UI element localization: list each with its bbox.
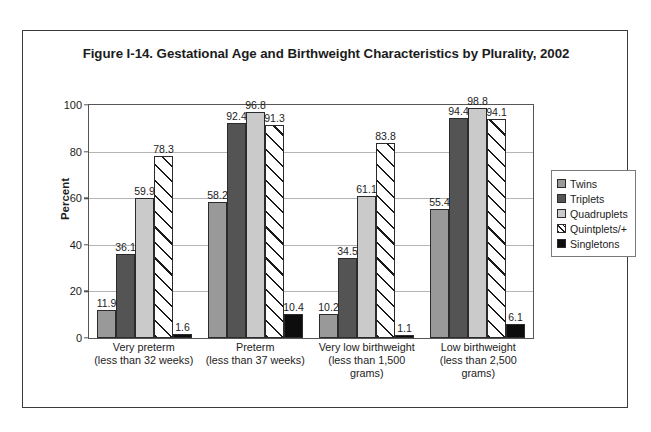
bar[interactable]: 10.2 <box>319 314 338 338</box>
bar[interactable]: 83.8 <box>376 143 395 338</box>
legend-label: Twins <box>570 178 597 190</box>
legend-swatch-icon <box>557 179 566 188</box>
bar-group: 11.936.159.978.31.6 <box>89 105 200 338</box>
bar[interactable]: 96.8 <box>246 112 265 338</box>
legend-item[interactable]: Singletons <box>557 236 628 251</box>
legend-swatch-icon <box>557 239 566 248</box>
bar-value-label: 1.1 <box>397 322 412 334</box>
bar-groups: 11.936.159.978.31.658.292.496.891.310.41… <box>89 105 533 338</box>
bars: 10.234.561.183.81.1 <box>311 105 422 338</box>
bar-slot: 55.4 <box>430 105 449 338</box>
bar-value-label: 94.1 <box>486 106 506 118</box>
legend-item[interactable]: Twins <box>557 176 628 191</box>
legend-label: Triplets <box>570 193 604 205</box>
bars: 58.292.496.891.310.4 <box>200 105 311 338</box>
bar-group: 10.234.561.183.81.1 <box>311 105 422 338</box>
bar-value-label: 10.2 <box>318 301 338 313</box>
bar[interactable]: 94.1 <box>487 119 506 338</box>
bar[interactable]: 6.1 <box>506 324 525 338</box>
bar-value-label: 91.3 <box>264 112 284 124</box>
bar[interactable]: 10.4 <box>284 314 303 338</box>
bar[interactable]: 36.1 <box>116 254 135 338</box>
bar-value-label: 55.4 <box>429 196 449 208</box>
bar-slot: 94.4 <box>449 105 468 338</box>
bar[interactable]: 94.4 <box>449 118 468 338</box>
y-tick-label: 100 <box>64 99 82 111</box>
y-tick-label: 60 <box>70 192 82 204</box>
figure-frame: Figure I-14. Gestational Age and Birthwe… <box>22 30 628 408</box>
bar-slot: 34.5 <box>338 105 357 338</box>
x-axis-category-label: Preterm(less than 37 weeks) <box>200 341 312 381</box>
bar[interactable]: 91.3 <box>265 125 284 338</box>
legend-item[interactable]: Quadruplets <box>557 206 628 221</box>
bar[interactable]: 92.4 <box>227 123 246 338</box>
bar-slot: 78.3 <box>154 105 173 338</box>
bar-slot: 92.4 <box>227 105 246 338</box>
chart-legend: TwinsTripletsQuadrupletsQuintplets/+Sing… <box>551 170 636 257</box>
bar[interactable]: 1.6 <box>173 334 192 338</box>
bar-value-label: 11.9 <box>97 297 117 309</box>
bar-value-label: 96.8 <box>245 99 265 111</box>
y-tick-label: 40 <box>70 239 82 251</box>
bar[interactable]: 34.5 <box>338 258 357 338</box>
bars: 55.494.498.894.16.1 <box>422 105 533 338</box>
bar-slot: 94.1 <box>487 105 506 338</box>
chart-title: Figure I-14. Gestational Age and Birthwe… <box>23 46 629 61</box>
bar[interactable]: 58.2 <box>208 202 227 338</box>
legend-swatch-icon <box>557 194 566 203</box>
bar-value-label: 78.3 <box>153 143 173 155</box>
bar[interactable]: 1.1 <box>395 335 414 338</box>
bar-slot: 58.2 <box>208 105 227 338</box>
legend-item[interactable]: Triplets <box>557 191 628 206</box>
bar-slot: 10.2 <box>319 105 338 338</box>
bar-slot: 83.8 <box>376 105 395 338</box>
legend-label: Quadruplets <box>570 208 628 220</box>
bar-slot: 6.1 <box>506 105 525 338</box>
bar[interactable]: 55.4 <box>430 209 449 338</box>
bar-value-label: 59.9 <box>134 185 154 197</box>
bar-value-label: 83.8 <box>375 130 395 142</box>
bar-slot: 11.9 <box>97 105 116 338</box>
y-tick-label: 20 <box>70 285 82 297</box>
bar-slot: 1.6 <box>173 105 192 338</box>
legend-item[interactable]: Quintplets/+ <box>557 221 628 236</box>
plot-area: 020406080100 11.936.159.978.31.658.292.4… <box>88 104 534 339</box>
bar-slot: 59.9 <box>135 105 154 338</box>
bar-slot: 96.8 <box>246 105 265 338</box>
bar-value-label: 94.4 <box>448 105 468 117</box>
bar-value-label: 1.6 <box>175 321 190 333</box>
bar-group: 55.494.498.894.16.1 <box>422 105 533 338</box>
bar-slot: 61.1 <box>357 105 376 338</box>
x-axis-category-label: Very preterm(less than 32 weeks) <box>88 341 200 381</box>
x-axis-category-label: Very low birthweight(less than 1,500gram… <box>311 341 423 381</box>
bar-slot: 1.1 <box>395 105 414 338</box>
bar-value-label: 6.1 <box>508 311 523 323</box>
bar[interactable]: 59.9 <box>135 198 154 338</box>
bar-slot: 91.3 <box>265 105 284 338</box>
bar-value-label: 34.5 <box>337 245 357 257</box>
bar-slot: 10.4 <box>284 105 303 338</box>
legend-label: Quintplets/+ <box>570 223 627 235</box>
bar-group: 58.292.496.891.310.4 <box>200 105 311 338</box>
bars: 11.936.159.978.31.6 <box>89 105 200 338</box>
y-tick-label: 0 <box>76 332 82 344</box>
bar-value-label: 61.1 <box>356 183 376 195</box>
legend-label: Singletons <box>570 238 619 250</box>
y-tick-label: 80 <box>70 146 82 158</box>
x-axis-labels: Very preterm(less than 32 weeks)Preterm(… <box>88 341 534 381</box>
bar-value-label: 10.4 <box>283 301 303 313</box>
bar-slot: 98.8 <box>468 105 487 338</box>
legend-swatch-icon <box>557 224 566 233</box>
x-axis-category-label: Low birthweight(less than 2,500grams) <box>423 341 535 381</box>
bar-slot: 36.1 <box>116 105 135 338</box>
bar-value-label: 58.2 <box>207 189 227 201</box>
bar[interactable]: 11.9 <box>97 310 116 338</box>
legend-swatch-icon <box>557 209 566 218</box>
bar[interactable]: 78.3 <box>154 156 173 338</box>
bar[interactable]: 61.1 <box>357 196 376 338</box>
bar-value-label: 36.1 <box>115 241 135 253</box>
bar-value-label: 98.8 <box>467 95 487 107</box>
bar-value-label: 92.4 <box>226 110 246 122</box>
bar[interactable]: 98.8 <box>468 108 487 338</box>
